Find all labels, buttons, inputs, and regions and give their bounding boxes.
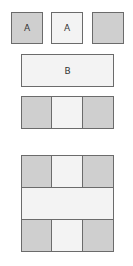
grid-top-middle [51,155,83,188]
bar-label: B [64,66,70,76]
row-cell-left [21,96,52,129]
grid-bottom-right [82,219,114,252]
box-a-light: A [51,12,83,44]
grid-bottom-middle [51,219,83,252]
row-cell-middle [51,96,83,129]
box-label: A [24,23,30,33]
bar-b: B [21,54,114,87]
box-label: A [64,23,70,33]
grid-middle-bar [21,187,114,220]
grid-bottom-left [21,219,52,252]
row-cell-right [82,96,114,129]
box-a-dark: A [11,12,43,44]
grid-top-right [82,155,114,188]
box-blank-dark [92,12,124,44]
grid-top-left [21,155,52,188]
